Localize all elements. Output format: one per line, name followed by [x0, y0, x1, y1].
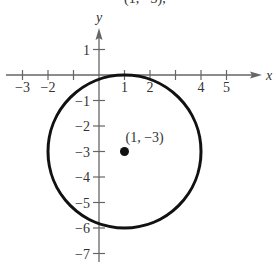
y-tick-label: −1	[75, 94, 90, 109]
y-axis-label: y	[94, 10, 103, 25]
chart-figure: (1, −3),xy−3−212451−1−2−3−4−5−6−7(1, −3)	[0, 0, 276, 265]
center-point	[120, 147, 129, 156]
x-tick-label: −2	[41, 80, 56, 95]
x-tick-label: 1	[121, 80, 128, 95]
y-tick-label: −7	[75, 247, 90, 262]
x-axis-label: x	[265, 68, 273, 83]
center-point-label: (1, −3)	[126, 130, 165, 146]
y-tick-label: −3	[75, 145, 90, 160]
x-tick-label: 2	[147, 80, 154, 95]
coordinate-plane: (1, −3),xy−3−212451−1−2−3−4−5−6−7(1, −3)	[0, 0, 276, 265]
cropped-title-text: (1, −3),	[124, 0, 166, 7]
x-tick-label: 5	[223, 80, 230, 95]
x-tick-label: −3	[15, 80, 30, 95]
y-tick-label: −5	[75, 196, 90, 211]
y-tick-label: −4	[75, 170, 90, 185]
x-tick-label: 4	[198, 80, 205, 95]
y-tick-label: −6	[75, 221, 90, 236]
y-tick-label: 1	[83, 43, 90, 58]
y-tick-label: −2	[75, 119, 90, 134]
